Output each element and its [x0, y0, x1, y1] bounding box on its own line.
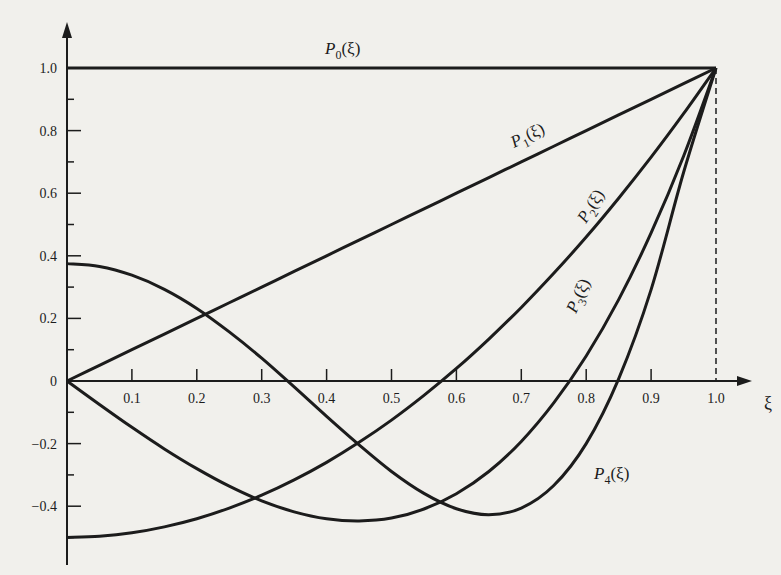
y-tick-label: −0.2 [32, 437, 57, 452]
x-tick-label: 0.2 [188, 391, 206, 406]
x-tick-label: 0.9 [642, 391, 660, 406]
x-tick-label: 0.1 [123, 391, 141, 406]
curve-p3 [67, 68, 716, 521]
label-p3: P3(ξ) [562, 276, 598, 319]
x-tick-label: 0.6 [448, 391, 466, 406]
y-tick-label: 0 [50, 374, 57, 389]
x-axis-arrow-icon [737, 376, 752, 386]
x-tick-label: 0.3 [253, 391, 271, 406]
y-tick-label: 0.4 [40, 249, 58, 264]
x-tick-label: 0.7 [513, 391, 531, 406]
x-tick-labels: 0.10.20.30.40.50.60.70.80.91.0 [123, 391, 725, 406]
x-axis-label: ξ [764, 393, 772, 413]
x-tick-label: 0.5 [383, 391, 401, 406]
y-tick-labels: 1.00.80.60.40.20−0.2−0.4 [32, 61, 57, 514]
y-ticks [67, 99, 81, 537]
x-tick-label: 0.4 [318, 391, 336, 406]
x-tick-label: 1.0 [707, 391, 725, 406]
label-p4: P4(ξ) [593, 464, 629, 487]
y-axis-arrow-icon [62, 22, 72, 38]
curve-labels: P0(ξ) P1(ξ) P2(ξ) P3(ξ) P4(ξ) [324, 39, 629, 487]
y-tick-label: 1.0 [40, 61, 58, 76]
y-tick-label: −0.4 [32, 499, 57, 514]
curve-p1 [67, 68, 716, 381]
legendre-polynomials-chart: 0.10.20.30.40.50.60.70.80.91.0 1.00.80.6… [0, 0, 781, 575]
y-tick-label: 0.2 [40, 311, 58, 326]
label-p0: P0(ξ) [324, 39, 360, 62]
label-p2: P2(ξ) [573, 186, 612, 229]
y-tick-label: 0.8 [40, 124, 58, 139]
x-tick-label: 0.8 [577, 391, 595, 406]
y-tick-label: 0.6 [40, 186, 58, 201]
